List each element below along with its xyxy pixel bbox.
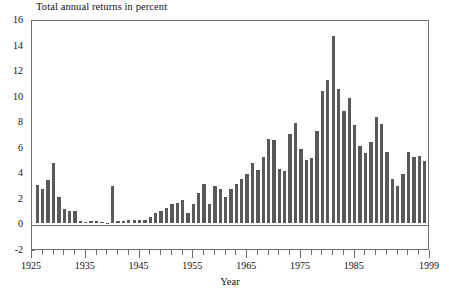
x-tick-minor — [160, 250, 161, 255]
x-tick-minor — [63, 250, 64, 255]
x-axis: Year 19251935194519551965197519851999 — [31, 250, 429, 302]
x-tick-minor — [278, 250, 279, 255]
x-tick-minor — [397, 250, 398, 255]
x-tick-label: 1935 — [75, 260, 95, 271]
x-tick-major — [31, 250, 32, 258]
x-tick-minor — [289, 250, 290, 255]
x-tick-minor — [74, 250, 75, 255]
y-tick-label: 6 — [18, 143, 23, 153]
bar-series — [32, 21, 428, 249]
x-tick-minor — [203, 250, 204, 255]
x-tick-major — [85, 250, 86, 258]
bar — [110, 186, 115, 223]
x-tick-minor — [182, 250, 183, 255]
x-tick-minor — [386, 250, 387, 255]
y-axis: -20246810121416 — [0, 20, 31, 250]
y-tick-label: 4 — [18, 168, 23, 178]
chart-root: Total annual returns in percent -2024681… — [0, 0, 449, 302]
x-tick-minor — [225, 250, 226, 255]
y-tick-label: 8 — [18, 117, 23, 127]
y-tick-label: 12 — [13, 66, 23, 76]
x-tick-minor — [364, 250, 365, 255]
x-tick-minor — [235, 250, 236, 255]
x-tick-minor — [311, 250, 312, 255]
x-tick-minor — [149, 250, 150, 255]
y-tick-label: 10 — [13, 92, 23, 102]
y-tick-label: -2 — [15, 245, 23, 255]
x-tick-minor — [171, 250, 172, 255]
x-tick-label: 1985 — [344, 260, 364, 271]
x-tick-major — [246, 250, 247, 258]
x-tick-minor — [343, 250, 344, 255]
x-tick-label: 1975 — [290, 260, 310, 271]
plot-inner — [32, 21, 428, 249]
x-tick-minor — [257, 250, 258, 255]
x-tick-major — [300, 250, 301, 258]
chart-title: Total annual returns in percent — [36, 1, 167, 12]
x-tick-minor — [418, 250, 419, 255]
x-tick-minor — [214, 250, 215, 255]
x-tick-minor — [42, 250, 43, 255]
y-tick-label: 0 — [18, 219, 23, 229]
x-tick-label: 1999 — [419, 260, 439, 271]
y-tick-label: 2 — [18, 194, 23, 204]
y-tick-label: 16 — [13, 15, 23, 25]
y-tick-label: 14 — [13, 41, 23, 51]
x-tick-minor — [321, 250, 322, 255]
x-tick-major — [139, 250, 140, 258]
x-tick-minor — [117, 250, 118, 255]
x-axis-title: Year — [31, 276, 429, 287]
x-tick-minor — [53, 250, 54, 255]
x-tick-label: 1925 — [21, 260, 41, 271]
x-tick-label: 1955 — [182, 260, 202, 271]
x-tick-minor — [375, 250, 376, 255]
bar — [422, 161, 427, 224]
x-tick-minor — [268, 250, 269, 255]
plot-area — [31, 20, 429, 250]
x-tick-major — [429, 250, 430, 258]
x-tick-minor — [332, 250, 333, 255]
x-tick-major — [354, 250, 355, 258]
x-tick-label: 1965 — [236, 260, 256, 271]
x-tick-label: 1945 — [129, 260, 149, 271]
x-tick-minor — [128, 250, 129, 255]
x-tick-minor — [96, 250, 97, 255]
x-tick-major — [192, 250, 193, 258]
x-tick-minor — [407, 250, 408, 255]
x-tick-minor — [106, 250, 107, 255]
